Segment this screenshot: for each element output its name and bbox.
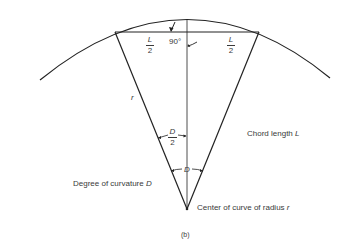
center-of-curve-label: Center of curve of radius r xyxy=(197,204,290,212)
half-chord-right-num: L xyxy=(229,35,233,44)
figure-caption: (b) xyxy=(181,231,190,238)
half-angle-den: 2 xyxy=(170,138,174,147)
circular-arc xyxy=(40,19,330,80)
radius-right xyxy=(187,32,259,209)
full-angle-label: D xyxy=(184,166,190,174)
radius-label: r xyxy=(131,94,134,102)
half-chord-left-den: 2 xyxy=(148,46,152,55)
half-angle-num: D xyxy=(170,127,176,136)
right-angle-arrow-icon xyxy=(188,42,197,46)
half-chord-left-label: L 2 xyxy=(146,36,154,55)
right-angle-label: 90° xyxy=(169,38,181,46)
half-chord-right-den: 2 xyxy=(229,46,233,55)
center-point xyxy=(186,208,189,211)
degree-of-curvature-label: Degree of curvature D xyxy=(73,180,152,188)
half-angle-label: D 2 xyxy=(168,128,177,147)
half-chord-left-num: L xyxy=(148,35,152,44)
chord-length-label: Chord length L xyxy=(247,130,299,138)
half-chord-right-label: L 2 xyxy=(227,36,235,55)
